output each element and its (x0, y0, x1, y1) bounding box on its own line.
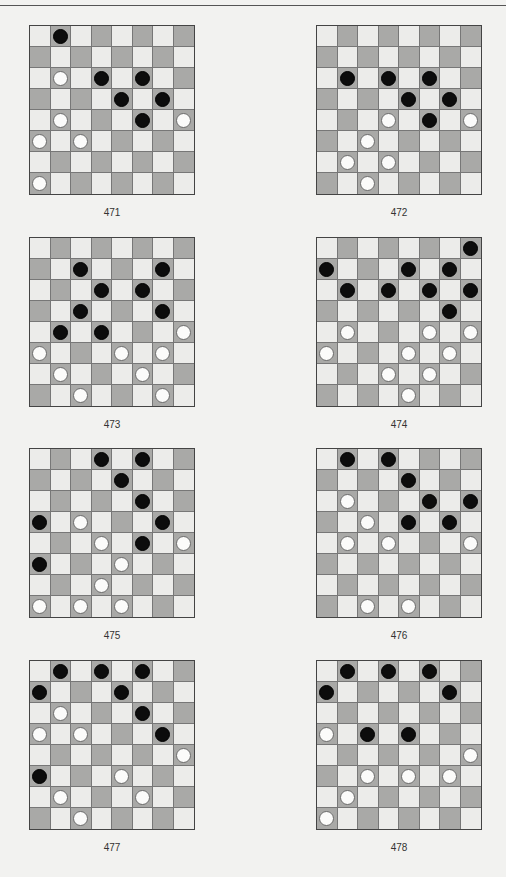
dark-square (30, 512, 51, 533)
dark-square (174, 152, 195, 173)
dark-square (30, 343, 51, 364)
dark-square (112, 766, 133, 787)
dark-square (112, 301, 133, 322)
white-checker-icon (360, 515, 375, 530)
black-checker-icon (114, 685, 129, 700)
dark-square (358, 385, 379, 406)
white-checker-icon (381, 367, 396, 382)
white-checker-icon (73, 515, 88, 530)
dark-square (399, 343, 420, 364)
light-square (461, 173, 482, 194)
light-square (71, 364, 92, 385)
dark-square (420, 533, 441, 554)
dark-square (379, 745, 400, 766)
dark-square (112, 173, 133, 194)
dark-square (399, 596, 420, 617)
dark-square (440, 47, 461, 68)
white-checker-icon (340, 790, 355, 805)
light-square (399, 703, 420, 724)
white-checker-icon (340, 325, 355, 340)
light-square (30, 152, 51, 173)
light-square (133, 596, 154, 617)
diagram-476 (316, 448, 482, 618)
black-checker-icon (32, 557, 47, 572)
dark-square (317, 470, 338, 491)
light-square (358, 280, 379, 301)
dark-square (338, 703, 359, 724)
dark-square (440, 470, 461, 491)
dark-square (51, 238, 72, 259)
light-square (338, 724, 359, 745)
light-square (440, 238, 461, 259)
dark-square (440, 724, 461, 745)
dark-square (30, 47, 51, 68)
dark-square (153, 596, 174, 617)
black-checker-icon (422, 494, 437, 509)
light-square (174, 47, 195, 68)
light-square (420, 682, 441, 703)
dark-square (174, 68, 195, 89)
light-square (338, 47, 359, 68)
dark-square (174, 533, 195, 554)
light-square (379, 259, 400, 280)
light-square (71, 787, 92, 808)
light-square (317, 152, 338, 173)
dark-square (133, 110, 154, 131)
white-checker-icon (53, 706, 68, 721)
dark-square (358, 808, 379, 829)
dark-square (112, 724, 133, 745)
diagram-473 (29, 237, 195, 407)
light-square (133, 724, 154, 745)
light-square (461, 259, 482, 280)
white-checker-icon (360, 176, 375, 191)
light-square (30, 449, 51, 470)
light-square (112, 280, 133, 301)
light-square (174, 596, 195, 617)
black-checker-icon (135, 706, 150, 721)
black-checker-icon (135, 536, 150, 551)
light-square (71, 449, 92, 470)
dark-square (338, 661, 359, 682)
light-square (174, 89, 195, 110)
dark-square (174, 449, 195, 470)
dark-square (174, 364, 195, 385)
dark-square (51, 26, 72, 47)
dark-square (153, 259, 174, 280)
black-checker-icon (135, 113, 150, 128)
white-checker-icon (32, 176, 47, 191)
light-square (399, 110, 420, 131)
black-checker-icon (32, 515, 47, 530)
light-square (338, 259, 359, 280)
black-checker-icon (135, 283, 150, 298)
dark-square (133, 238, 154, 259)
light-square (112, 787, 133, 808)
dark-square (399, 808, 420, 829)
light-square (30, 238, 51, 259)
dark-square (51, 575, 72, 596)
black-checker-icon (401, 727, 416, 742)
dark-square (399, 512, 420, 533)
dark-square (30, 301, 51, 322)
light-square (461, 682, 482, 703)
white-checker-icon (53, 790, 68, 805)
diagram-475 (29, 448, 195, 618)
light-square (112, 322, 133, 343)
light-square (51, 301, 72, 322)
white-checker-icon (381, 536, 396, 551)
white-checker-icon (401, 388, 416, 403)
dark-square (92, 575, 113, 596)
light-square (153, 575, 174, 596)
white-checker-icon (114, 346, 129, 361)
dark-square (379, 533, 400, 554)
light-square (51, 724, 72, 745)
dark-square (317, 301, 338, 322)
light-square (399, 575, 420, 596)
dark-square (133, 26, 154, 47)
dark-square (71, 470, 92, 491)
light-square (112, 110, 133, 131)
black-checker-icon (155, 92, 170, 107)
black-checker-icon (94, 71, 109, 86)
dark-square (461, 152, 482, 173)
light-square (420, 89, 441, 110)
dark-square (358, 131, 379, 152)
